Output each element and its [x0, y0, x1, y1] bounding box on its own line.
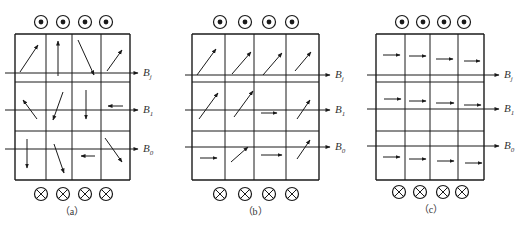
- current-in-icon: [286, 188, 299, 201]
- current-out-icon: [35, 16, 48, 29]
- current-out-icon: [286, 16, 299, 29]
- field-label: B1: [143, 103, 153, 118]
- current-in-icon: [214, 188, 227, 201]
- current-in-icon: [79, 188, 92, 201]
- current-out-icon: [438, 16, 451, 29]
- current-in-icon: [414, 186, 427, 199]
- domain-arrow: [295, 52, 311, 71]
- current-in-icon: [456, 186, 469, 199]
- domain-arrow: [297, 140, 310, 159]
- field-label: B0: [143, 142, 154, 157]
- current-out-icon: [396, 16, 409, 29]
- domain-arrow: [107, 50, 122, 71]
- panel-caption: （c）: [419, 204, 443, 215]
- panels-layer: BjB1B0（a）BjB1B0（b）BjB1B0（c）: [5, 16, 515, 218]
- domain-arrow: [20, 45, 38, 72]
- current-out-icon: [458, 16, 471, 29]
- diagram-canvas: BjB1B0（a）BjB1B0（b）BjB1B0（c）: [0, 0, 517, 229]
- domain-arrow: [54, 144, 64, 173]
- current-out-icon: [214, 16, 227, 29]
- current-in-icon: [57, 188, 70, 201]
- panel-b: BjB1B0（b）: [185, 16, 346, 218]
- domain-arrow: [231, 147, 248, 162]
- domain-arrow: [105, 138, 122, 162]
- current-out-icon: [79, 16, 92, 29]
- domain-arrow: [232, 52, 251, 74]
- current-in-icon: [437, 186, 450, 199]
- panel-a: BjB1B0（a）: [5, 16, 154, 218]
- current-out-icon: [263, 16, 276, 29]
- current-in-icon: [100, 188, 113, 201]
- current-out-icon: [239, 16, 252, 29]
- domain-arrow: [197, 49, 216, 75]
- magnetic-field-diagram: BjB1B0（a）BjB1B0（b）BjB1B0（c） （a） （b） （c）: [0, 0, 517, 229]
- current-in-icon: [35, 188, 48, 201]
- field-label: B0: [335, 140, 346, 155]
- current-in-icon: [393, 186, 406, 199]
- domain-arrow: [78, 40, 94, 75]
- domain-arrow: [53, 92, 63, 120]
- panel-caption: （a）: [60, 206, 84, 217]
- panel-caption: （b）: [243, 206, 268, 217]
- current-out-icon: [57, 16, 70, 29]
- field-label: B0: [504, 139, 515, 154]
- field-label: B1: [335, 103, 345, 118]
- field-label: B1: [504, 102, 514, 117]
- field-label: Bj: [504, 68, 513, 83]
- current-out-icon: [417, 16, 430, 29]
- current-out-icon: [100, 16, 113, 29]
- domain-arrow: [263, 53, 282, 75]
- field-label: Bj: [335, 68, 344, 83]
- domain-arrow: [234, 91, 253, 117]
- current-in-icon: [263, 188, 276, 201]
- field-label: Bj: [143, 66, 152, 81]
- current-in-icon: [239, 188, 252, 201]
- domain-arrow: [199, 93, 218, 119]
- panel-c: BjB1B0（c）: [367, 16, 515, 216]
